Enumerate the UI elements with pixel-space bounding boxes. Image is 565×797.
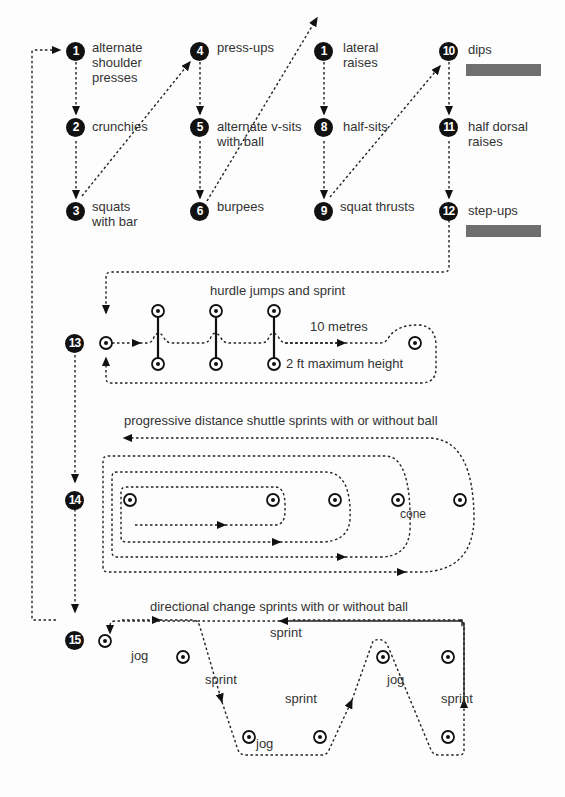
- jog-label-2: jog: [256, 736, 273, 751]
- return-path: [32, 50, 60, 620]
- station-label-7: lateral raises: [343, 40, 378, 70]
- station-node-10: 10: [439, 42, 458, 61]
- sprint-top-label: sprint: [270, 625, 302, 640]
- cone-label: cone: [400, 507, 426, 522]
- station-label-5: alternate v-sits with ball: [217, 119, 302, 149]
- station-label-12: step-ups: [468, 203, 518, 218]
- cone-icons: [99, 305, 466, 743]
- station-node-5: 5: [190, 118, 209, 137]
- shuttle-title: progressive distance shuttle sprints wit…: [124, 413, 438, 428]
- station-label-6: burpees: [217, 199, 264, 214]
- sprint-label-2: sprint: [285, 691, 317, 706]
- distance-label: 10 metres: [310, 319, 368, 334]
- station-node-13: 13: [65, 334, 84, 353]
- station-node-11: 11: [439, 118, 458, 137]
- station-node-7: 1: [314, 42, 333, 61]
- station-node-12: 12: [439, 202, 458, 221]
- station-node-1: 1: [66, 42, 85, 61]
- station-label-10: dips: [468, 42, 492, 57]
- station-label-2: crunchies: [92, 119, 148, 134]
- directional-title: directional change sprints with or witho…: [150, 599, 408, 614]
- jog-label-3: jog: [387, 672, 404, 687]
- height-label: 2 ft maximum height: [286, 356, 403, 371]
- sprint-label-1: sprint: [205, 672, 237, 687]
- hurdle-title: hurdle jumps and sprint: [210, 283, 345, 298]
- station-label-9: squat thrusts: [340, 199, 414, 214]
- station-label-8: half-sits: [343, 119, 388, 134]
- station-node-3: 3: [66, 202, 85, 221]
- station-node-8: 8: [314, 118, 333, 137]
- gray-bar-12: [466, 225, 541, 237]
- station-label-11: half dorsal raises: [468, 119, 528, 149]
- station-node-2: 2: [66, 118, 85, 137]
- station-node-4: 4: [190, 42, 209, 61]
- jog-label-1: jog: [131, 648, 148, 663]
- station-node-15: 15: [65, 631, 84, 650]
- station-label-4: press-ups: [217, 40, 274, 55]
- gray-bar-10: [466, 64, 541, 76]
- station-node-9: 9: [314, 202, 333, 221]
- station-node-6: 6: [190, 202, 209, 221]
- station-label-3: squats with bar: [92, 199, 138, 229]
- station-label-1: alternate shoulder presses: [92, 40, 143, 85]
- sprint-label-3: sprint: [441, 691, 473, 706]
- station-node-14: 14: [65, 491, 84, 510]
